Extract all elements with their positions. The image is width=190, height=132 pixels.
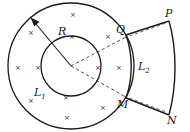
- field-mark: ×: [64, 115, 70, 122]
- vertex-m-label: M: [117, 99, 128, 110]
- edge-pn: [169, 21, 175, 115]
- vertex-n-label: N: [167, 115, 177, 126]
- field-mark: ×: [100, 105, 106, 112]
- vertex-q-label: Q: [116, 24, 125, 35]
- physics-diagram-figure: × × × × × × × × × × × × R L1 L2 P Q M N: [0, 0, 190, 132]
- dashed-extension-upper: [124, 23, 166, 38]
- edge-qp: [126, 21, 169, 35]
- radius-label: R: [58, 26, 66, 37]
- field-mark: ×: [95, 65, 101, 72]
- field-mark: ×: [116, 65, 122, 72]
- dashed-radial-upper: [71, 38, 124, 66]
- field-mark: ×: [28, 30, 34, 37]
- edge-mn: [126, 98, 169, 115]
- field-mark: ×: [35, 65, 41, 72]
- loop-l2-label: L2: [138, 61, 150, 75]
- field-mark: ×: [15, 65, 21, 72]
- field-mark: ×: [105, 34, 111, 41]
- vertex-p-label: P: [165, 8, 172, 19]
- field-mark: ×: [70, 12, 76, 19]
- loop-l1-label: L1: [34, 87, 46, 101]
- dashed-extension-lower: [124, 96, 166, 112]
- field-mark: ×: [69, 34, 75, 41]
- field-mark: ×: [63, 95, 69, 102]
